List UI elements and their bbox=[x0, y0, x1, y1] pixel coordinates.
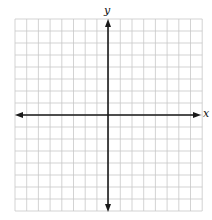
x-axis-right-arrow-icon bbox=[193, 112, 201, 118]
x-axis-label: x bbox=[203, 108, 209, 119]
coordinate-plane: y x bbox=[0, 0, 212, 220]
x-axis-left-arrow-icon bbox=[15, 112, 23, 118]
grid-graph bbox=[0, 0, 212, 220]
y-axis-label: y bbox=[104, 5, 110, 16]
y-axis-up-arrow-icon bbox=[105, 19, 111, 27]
